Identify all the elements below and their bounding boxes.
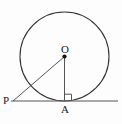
- geometry-figure: O P A: [0, 0, 122, 124]
- label-external-point-p: P: [3, 95, 9, 106]
- center-point-dot: [62, 54, 66, 58]
- label-center-o: O: [61, 44, 69, 55]
- right-angle-marker: [65, 94, 72, 101]
- label-tangent-point-a: A: [61, 104, 69, 115]
